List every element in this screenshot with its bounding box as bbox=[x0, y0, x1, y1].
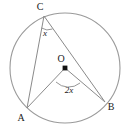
segment-OA bbox=[27, 68, 65, 108]
segment-CA bbox=[27, 16, 44, 108]
segment-CB bbox=[44, 16, 105, 102]
vertex-label-O: O bbox=[57, 53, 64, 64]
angle-label-x: x bbox=[42, 28, 47, 38]
vertex-label-A: A bbox=[17, 112, 25, 123]
vertex-label-B: B bbox=[108, 101, 115, 112]
geometry-figure: C O A B x 2x bbox=[0, 0, 128, 133]
angle-label-2x: 2x bbox=[65, 85, 74, 95]
center-point-dot bbox=[63, 66, 68, 71]
vertex-label-C: C bbox=[37, 1, 44, 12]
geometry-svg: C O A B x 2x bbox=[0, 0, 128, 133]
